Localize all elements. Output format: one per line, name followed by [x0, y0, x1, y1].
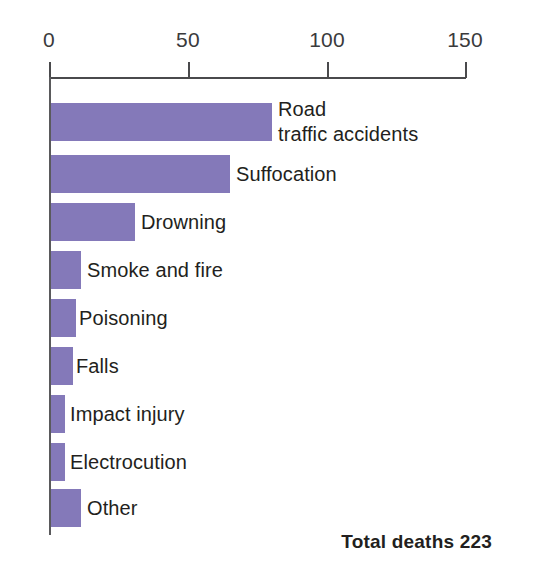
- bar-drowning: [51, 203, 135, 241]
- bar-row: Poisoning: [0, 299, 538, 337]
- bar-other: [51, 489, 81, 527]
- bar-impact-injury: [51, 395, 65, 433]
- bar-road-traffic-accidents: [51, 103, 272, 141]
- bar-smoke-and-fire: [51, 251, 81, 289]
- bar-row: Impact injury: [0, 395, 538, 433]
- bar-label: Other: [87, 496, 138, 521]
- bar-row: Other: [0, 489, 538, 527]
- bar-row: Falls: [0, 347, 538, 385]
- bar-label: Smoke and fire: [87, 258, 223, 283]
- bar-poisoning: [51, 299, 76, 337]
- bar-row: Drowning: [0, 203, 538, 241]
- bar-row: Electrocution: [0, 443, 538, 481]
- bars-area: Road traffic accidents Suffocation Drown…: [0, 0, 538, 576]
- bar-label: Road traffic accidents: [278, 97, 418, 147]
- bar-falls: [51, 347, 73, 385]
- bar-row: Suffocation: [0, 155, 538, 193]
- total-deaths-annotation: Total deaths 223: [341, 531, 492, 553]
- bar-label: Electrocution: [70, 450, 187, 475]
- bar-row: Smoke and fire: [0, 251, 538, 289]
- bar-label: Poisoning: [79, 306, 168, 331]
- bar-electrocution: [51, 443, 65, 481]
- bar-row: Road traffic accidents: [0, 103, 538, 141]
- bar-label: Suffocation: [236, 162, 337, 187]
- bar-suffocation: [51, 155, 230, 193]
- bar-label: Drowning: [141, 210, 226, 235]
- bar-label: Impact injury: [70, 402, 185, 427]
- bar-chart: 0 50 100 150 Road traffic accidents Suff…: [0, 0, 538, 576]
- bar-label: Falls: [76, 354, 119, 379]
